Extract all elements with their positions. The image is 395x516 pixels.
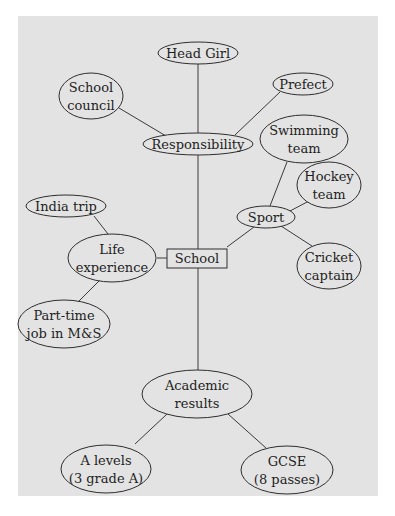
edge-sport-cricket <box>281 226 312 246</box>
node-a-levels: A levels (3 grade A) <box>61 445 151 493</box>
node-label: India trip <box>35 199 97 214</box>
edge-school-sport <box>227 227 254 247</box>
node-label-line2: captain <box>305 268 354 283</box>
node-gcse: GCSE (8 passes) <box>241 446 333 494</box>
node-label-line2: council <box>67 98 114 113</box>
edge-life-india <box>94 216 108 234</box>
mind-map: Head Girl School council Prefect Respons… <box>0 0 395 516</box>
node-cricket-captain: Cricket captain <box>297 243 361 289</box>
node-label-line1: Cricket <box>305 250 354 265</box>
node-label-line1: Swimming <box>269 123 339 138</box>
node-hockey-team: Hockey team <box>297 162 361 208</box>
node-prefect: Prefect <box>273 73 333 95</box>
node-label: Prefect <box>279 77 327 92</box>
node-life-experience: Life experience <box>68 234 156 282</box>
node-label-line2: team <box>288 141 321 156</box>
node-label-line2: (8 passes) <box>254 472 320 487</box>
node-label-line2: experience <box>76 260 149 275</box>
edge-academic-alevels <box>135 414 167 444</box>
node-label: Sport <box>248 210 285 225</box>
node-part-time-job: Part-time job in M&S <box>18 300 110 348</box>
node-india-trip: India trip <box>26 195 106 217</box>
node-responsibility: Responsibility <box>143 133 253 155</box>
node-school-council: School council <box>59 73 123 119</box>
node-swimming-team: Swimming team <box>260 115 348 163</box>
node-label-line1: A levels <box>79 453 131 468</box>
node-academic-results: Academic results <box>142 370 252 418</box>
node-label-line2: job in M&S <box>25 326 102 341</box>
node-head-girl: Head Girl <box>158 42 238 64</box>
node-sport: Sport <box>237 206 295 228</box>
node-label-line1: Academic <box>164 378 229 393</box>
node-label-line1: Part-time <box>33 308 94 323</box>
node-label-line2: team <box>313 187 346 202</box>
node-label: Head Girl <box>166 46 230 61</box>
edge-sport-hockey <box>290 201 309 211</box>
node-label-line2: results <box>174 396 219 411</box>
node-label-line1: Life <box>99 242 125 257</box>
root-label: School <box>175 251 219 266</box>
node-label: Responsibility <box>152 137 246 152</box>
edge-academic-gcse <box>228 414 266 448</box>
edge-life-parttime <box>78 280 100 302</box>
node-label-line1: School <box>69 80 113 95</box>
node-school-root: School <box>167 249 227 268</box>
edge-sport-swimming <box>270 162 287 206</box>
edge-responsibility-school-council <box>119 108 166 136</box>
node-label-line2: (3 grade A) <box>69 471 143 486</box>
node-label-line1: Hockey <box>304 169 354 184</box>
node-label-line1: GCSE <box>268 454 307 469</box>
